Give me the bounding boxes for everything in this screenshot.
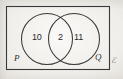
venn-diagram-figure: 10 2 11 P Q ℰ bbox=[0, 0, 123, 79]
set-label-p: P bbox=[14, 54, 20, 63]
universal-set-symbol: ℰ bbox=[111, 57, 116, 65]
set-label-q: Q bbox=[95, 53, 102, 62]
region-count-intersection: 2 bbox=[58, 33, 63, 42]
set-p-circle bbox=[22, 14, 73, 65]
region-count-p-only: 10 bbox=[32, 33, 42, 42]
region-count-q-only: 11 bbox=[74, 33, 83, 42]
